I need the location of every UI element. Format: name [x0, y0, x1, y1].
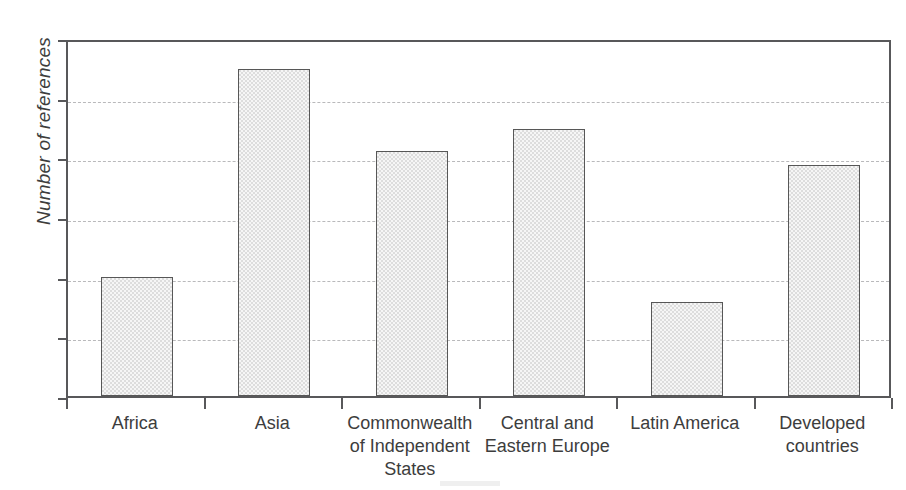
- x-axis-category-label: Asia: [204, 412, 342, 435]
- gridline: [68, 340, 889, 341]
- bar: [513, 129, 585, 396]
- bar: [376, 151, 448, 396]
- x-axis-category-label: Developedcountries: [754, 412, 892, 458]
- x-axis-category-label-line: countries: [754, 435, 892, 458]
- x-axis-category-label-line: Asia: [204, 412, 342, 435]
- x-axis-category-label: Latin America: [616, 412, 754, 435]
- x-axis-category-label-line: Central and: [479, 412, 617, 435]
- x-tick-mark: [341, 398, 343, 409]
- x-tick-mark: [754, 398, 756, 409]
- x-axis-category-label-line: Africa: [66, 412, 204, 435]
- bar: [238, 69, 310, 396]
- page-scan-artifact: [440, 481, 500, 486]
- bar-chart: Number of references 0102030405060 Afric…: [0, 0, 906, 490]
- plot-area: [66, 40, 891, 398]
- gridline: [68, 281, 889, 282]
- x-tick-mark: [616, 398, 618, 409]
- x-axis-category-label-line: of Independent: [341, 435, 479, 458]
- bar: [651, 302, 723, 396]
- x-axis-category-label-line: Commonwealth: [341, 412, 479, 435]
- bar: [788, 165, 860, 396]
- bar: [101, 277, 173, 396]
- x-axis-category-label-line: Latin America: [616, 412, 754, 435]
- x-axis-category-label: Africa: [66, 412, 204, 435]
- x-tick-mark: [66, 398, 68, 409]
- gridline: [68, 102, 889, 103]
- x-axis-category-label-line: Developed: [754, 412, 892, 435]
- x-axis-category-label-line: Eastern Europe: [479, 435, 617, 458]
- y-axis-title: Number of references: [33, 1, 55, 261]
- x-axis-category-label-line: States: [341, 458, 479, 481]
- x-axis-category-label: Central andEastern Europe: [479, 412, 617, 458]
- gridline: [68, 221, 889, 222]
- x-axis-category-label: Commonwealthof IndependentStates: [341, 412, 479, 481]
- x-tick-mark: [479, 398, 481, 409]
- x-tick-mark: [204, 398, 206, 409]
- x-tick-mark: [891, 398, 893, 409]
- gridline: [68, 161, 889, 162]
